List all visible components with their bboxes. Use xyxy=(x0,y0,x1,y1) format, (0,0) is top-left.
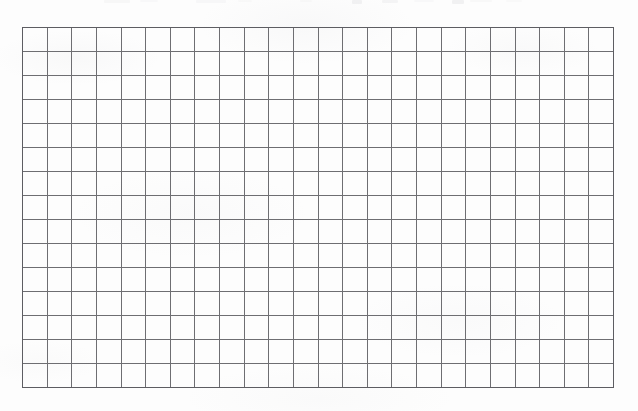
grid-cell[interactable] xyxy=(269,244,294,268)
grid-cell[interactable] xyxy=(244,196,269,220)
grid-cell[interactable] xyxy=(540,244,565,268)
grid-cell[interactable] xyxy=(47,268,72,292)
grid-cell[interactable] xyxy=(417,340,442,364)
grid-cell[interactable] xyxy=(293,148,318,172)
grid-cell[interactable] xyxy=(121,220,146,244)
grid-cell[interactable] xyxy=(564,364,589,388)
grid-cell[interactable] xyxy=(220,340,245,364)
grid-cell[interactable] xyxy=(367,124,392,148)
grid-cell[interactable] xyxy=(244,76,269,100)
grid-cell[interactable] xyxy=(564,340,589,364)
grid-cell[interactable] xyxy=(318,148,343,172)
grid-cell[interactable] xyxy=(441,172,466,196)
grid-cell[interactable] xyxy=(441,148,466,172)
grid-cell[interactable] xyxy=(417,316,442,340)
grid-cell[interactable] xyxy=(195,76,220,100)
grid-cell[interactable] xyxy=(170,292,195,316)
grid-cell[interactable] xyxy=(564,244,589,268)
grid-cell[interactable] xyxy=(146,76,171,100)
grid-cell[interactable] xyxy=(220,220,245,244)
grid-cell[interactable] xyxy=(146,28,171,52)
grid-cell[interactable] xyxy=(195,316,220,340)
grid-cell[interactable] xyxy=(589,100,614,124)
grid-cell[interactable] xyxy=(220,172,245,196)
grid-cell[interactable] xyxy=(367,268,392,292)
grid-cell[interactable] xyxy=(146,148,171,172)
grid-cell[interactable] xyxy=(441,220,466,244)
grid-cell[interactable] xyxy=(441,52,466,76)
grid-cell[interactable] xyxy=(170,172,195,196)
grid-cell[interactable] xyxy=(72,220,97,244)
grid-cell[interactable] xyxy=(96,148,121,172)
grid-cell[interactable] xyxy=(96,28,121,52)
grid-cell[interactable] xyxy=(564,52,589,76)
grid-cell[interactable] xyxy=(47,316,72,340)
grid-cell[interactable] xyxy=(343,172,368,196)
grid-cell[interactable] xyxy=(466,100,491,124)
grid-cell[interactable] xyxy=(392,76,417,100)
grid-cell[interactable] xyxy=(96,220,121,244)
grid-cell[interactable] xyxy=(540,316,565,340)
grid-cell[interactable] xyxy=(441,268,466,292)
grid-cell[interactable] xyxy=(146,196,171,220)
grid-cell[interactable] xyxy=(318,172,343,196)
grid-cell[interactable] xyxy=(72,196,97,220)
grid-cell[interactable] xyxy=(515,28,540,52)
grid-cell[interactable] xyxy=(195,292,220,316)
grid-cell[interactable] xyxy=(47,148,72,172)
grid-cell[interactable] xyxy=(392,244,417,268)
grid-cell[interactable] xyxy=(490,52,515,76)
grid-cell[interactable] xyxy=(318,316,343,340)
grid-cell[interactable] xyxy=(170,220,195,244)
grid-cell[interactable] xyxy=(170,196,195,220)
grid-cell[interactable] xyxy=(244,364,269,388)
grid-cell[interactable] xyxy=(96,76,121,100)
grid-cell[interactable] xyxy=(318,364,343,388)
grid-cell[interactable] xyxy=(23,124,48,148)
grid-cell[interactable] xyxy=(170,244,195,268)
grid-cell[interactable] xyxy=(72,244,97,268)
grid-cell[interactable] xyxy=(367,292,392,316)
grid-cell[interactable] xyxy=(244,172,269,196)
grid-cell[interactable] xyxy=(170,76,195,100)
grid-cell[interactable] xyxy=(293,52,318,76)
grid-cell[interactable] xyxy=(343,364,368,388)
grid-cell[interactable] xyxy=(96,124,121,148)
grid-cell[interactable] xyxy=(146,316,171,340)
grid-cell[interactable] xyxy=(318,196,343,220)
grid-cell[interactable] xyxy=(96,268,121,292)
grid-cell[interactable] xyxy=(490,244,515,268)
grid-cell[interactable] xyxy=(318,100,343,124)
grid-cell[interactable] xyxy=(392,268,417,292)
grid-cell[interactable] xyxy=(220,148,245,172)
grid-cell[interactable] xyxy=(195,220,220,244)
grid-cell[interactable] xyxy=(515,340,540,364)
grid-cell[interactable] xyxy=(72,340,97,364)
grid-cell[interactable] xyxy=(96,364,121,388)
grid-cell[interactable] xyxy=(589,172,614,196)
grid-cell[interactable] xyxy=(293,76,318,100)
grid-cell[interactable] xyxy=(269,316,294,340)
grid-cell[interactable] xyxy=(515,292,540,316)
grid-cell[interactable] xyxy=(170,52,195,76)
grid-cell[interactable] xyxy=(515,148,540,172)
grid-cell[interactable] xyxy=(244,148,269,172)
grid-cell[interactable] xyxy=(343,148,368,172)
grid-cell[interactable] xyxy=(23,364,48,388)
grid-cell[interactable] xyxy=(417,52,442,76)
grid-cell[interactable] xyxy=(220,124,245,148)
grid-cell[interactable] xyxy=(220,196,245,220)
grid-cell[interactable] xyxy=(96,244,121,268)
grid-cell[interactable] xyxy=(293,196,318,220)
grid-cell[interactable] xyxy=(515,244,540,268)
grid-cell[interactable] xyxy=(589,148,614,172)
grid-cell[interactable] xyxy=(589,220,614,244)
grid-cell[interactable] xyxy=(72,76,97,100)
grid-cell[interactable] xyxy=(417,28,442,52)
grid-cell[interactable] xyxy=(392,196,417,220)
grid-cell[interactable] xyxy=(540,172,565,196)
grid-cell[interactable] xyxy=(515,364,540,388)
grid-cell[interactable] xyxy=(466,244,491,268)
grid-cell[interactable] xyxy=(293,340,318,364)
grid-cell[interactable] xyxy=(121,124,146,148)
